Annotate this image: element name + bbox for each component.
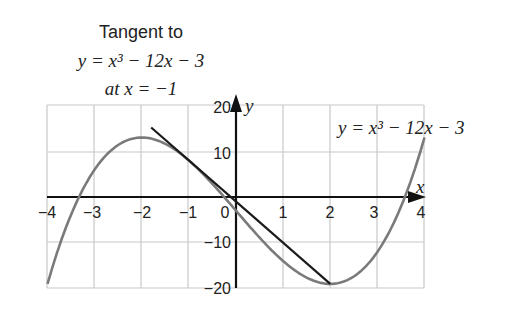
chart: −4 −3 −2 −1 0 1 2 3 4 20 10 −10 −20 y x …	[0, 0, 514, 314]
x-tick: 4	[417, 204, 426, 221]
y-tick: 10	[213, 145, 231, 162]
x-tick: 0	[221, 204, 230, 221]
x-tick: 2	[326, 204, 335, 221]
y-axis-label: y	[243, 95, 254, 116]
x-tick: 1	[279, 204, 288, 221]
y-tick: −20	[204, 280, 231, 297]
y-tick: −10	[204, 234, 231, 251]
x-tick: −1	[179, 204, 197, 221]
y-tick: 20	[213, 99, 231, 116]
curve-label: y = x³ − 12x − 3	[336, 117, 464, 138]
x-tick: −3	[83, 204, 101, 221]
x-tick: 3	[370, 204, 379, 221]
x-tick: −4	[38, 204, 56, 221]
x-tick: −2	[133, 204, 151, 221]
x-axis-label: x	[415, 176, 425, 197]
